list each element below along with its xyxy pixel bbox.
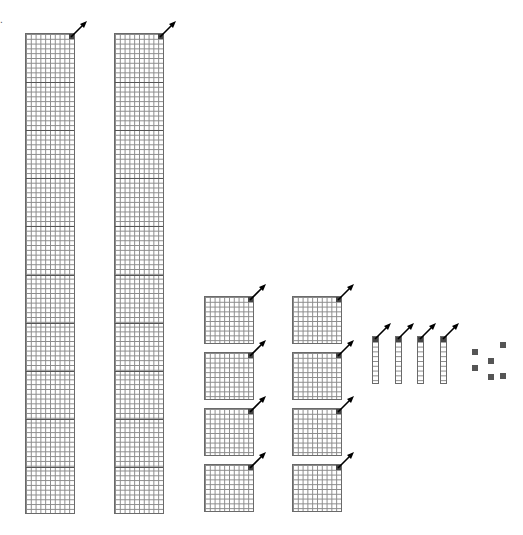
ten-rod <box>395 336 402 384</box>
arrow-icon <box>160 21 180 41</box>
arrow-icon <box>375 323 395 343</box>
one-unit <box>472 349 478 355</box>
arrow-icon <box>250 452 270 472</box>
one-unit <box>472 365 478 371</box>
section-divider <box>26 178 74 179</box>
section-divider <box>26 275 74 276</box>
arrow-icon <box>250 396 270 416</box>
section-divider <box>26 467 74 468</box>
section-divider <box>26 419 74 420</box>
one-unit <box>500 342 506 348</box>
section-divider <box>115 178 163 179</box>
hundred-flat <box>292 464 342 512</box>
hundred-flat <box>204 352 254 400</box>
arrow-icon <box>443 323 463 343</box>
one-unit <box>500 373 506 379</box>
section-divider <box>26 371 74 372</box>
hundred-flat <box>204 296 254 344</box>
section-divider <box>26 226 74 227</box>
arrow-icon <box>71 21 91 41</box>
section-divider <box>26 323 74 324</box>
dot-mark: . <box>0 14 3 25</box>
section-divider <box>26 82 74 83</box>
ten-rod <box>440 336 447 384</box>
arrow-icon <box>420 323 440 343</box>
section-divider <box>115 275 163 276</box>
section-divider <box>115 419 163 420</box>
hundred-flat <box>204 464 254 512</box>
arrow-icon <box>338 284 358 304</box>
hundred-flat <box>204 408 254 456</box>
section-divider <box>115 467 163 468</box>
hundred-flat <box>292 352 342 400</box>
arrow-icon <box>250 284 270 304</box>
section-divider <box>115 82 163 83</box>
ten-rod <box>417 336 424 384</box>
section-divider <box>115 226 163 227</box>
thousand-column <box>25 33 75 514</box>
arrow-icon <box>338 340 358 360</box>
section-divider <box>26 130 74 131</box>
section-divider <box>115 130 163 131</box>
one-unit <box>488 358 494 364</box>
section-divider <box>115 323 163 324</box>
thousand-column <box>114 33 164 514</box>
arrow-icon <box>338 396 358 416</box>
hundred-flat <box>292 408 342 456</box>
one-unit <box>488 374 494 380</box>
hundred-flat <box>292 296 342 344</box>
arrow-icon <box>250 340 270 360</box>
arrow-icon <box>398 323 418 343</box>
ten-rod <box>372 336 379 384</box>
arrow-icon <box>338 452 358 472</box>
section-divider <box>115 371 163 372</box>
